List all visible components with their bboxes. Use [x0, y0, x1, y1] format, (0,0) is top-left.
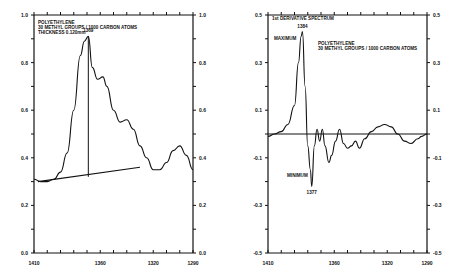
y-tick-label-right: -0.3 — [433, 202, 442, 208]
y-tick-label-right: -0.5 — [433, 250, 442, 256]
max-value-label: 1384 — [297, 24, 308, 29]
spectrum-curve — [268, 32, 427, 187]
y-tick-label-left: 0.8 — [21, 60, 28, 66]
y-tick-label-right: -0.1 — [433, 155, 442, 161]
y-tick-label-left: 0.2 — [21, 202, 28, 208]
y-tick-label-left: 1.0 — [21, 12, 28, 18]
y-tick-label-right: 0.2 — [199, 202, 206, 208]
max-label: MAXIMUM — [274, 36, 297, 41]
baseline-line — [38, 167, 140, 181]
spectrum-curve — [34, 36, 193, 181]
y-tick-label-right: 1.0 — [199, 12, 206, 18]
absorbance-chart: 1.01.00.80.80.60.60.40.40.20.20.00.01410… — [21, 12, 206, 266]
y-tick-label-left: 0.4 — [21, 155, 28, 161]
annotation-line: 30 METHYL GROUPS / 1000 CARBON ATOMS — [318, 46, 417, 51]
y-tick-label-right: 0.3 — [433, 60, 440, 66]
x-tick-label: 1290 — [187, 260, 198, 266]
y-tick-label-left: 0.1 — [255, 107, 262, 113]
annotation-line: THICKNESS 0.120mm — [38, 30, 86, 35]
y-tick-label-right: 0.1 — [433, 107, 440, 113]
min-label: MINIMUM — [287, 173, 308, 178]
derivative-chart: 0.50.50.30.30.10.1-0.1-0.1-0.3-0.3-0.5-0… — [253, 12, 441, 266]
y-tick-label-left: 0.0 — [21, 250, 28, 256]
y-tick-label-right: 0.4 — [199, 155, 206, 161]
x-tick-label: 1360 — [95, 260, 106, 266]
x-tick-label: 1320 — [382, 260, 393, 266]
y-tick-label-right: 0.5 — [433, 12, 440, 18]
y-tick-label-right: 0.8 — [199, 60, 206, 66]
spectra-figure: 1.01.00.80.80.60.60.40.40.20.20.00.01410… — [0, 0, 457, 276]
x-tick-label: 1410 — [262, 260, 273, 266]
y-tick-label-right: 0.0 — [199, 250, 206, 256]
y-tick-label-left: 0.6 — [21, 107, 28, 113]
derivative-title: 1st DERIVATIVE SPECTRUM — [272, 16, 334, 21]
x-tick-label: 1410 — [28, 260, 39, 266]
x-tick-label: 1290 — [421, 260, 432, 266]
y-tick-label-left: 0.3 — [255, 60, 262, 66]
min-value-label: 1377 — [307, 190, 318, 195]
y-tick-label-left: -0.5 — [253, 250, 262, 256]
y-tick-label-right: 0.6 — [199, 107, 206, 113]
x-tick-label: 1320 — [148, 260, 159, 266]
y-tick-label-left: 0.5 — [255, 12, 262, 18]
peak-label: 1369 — [83, 28, 94, 33]
y-tick-label-left: -0.3 — [253, 202, 262, 208]
x-tick-label: 1360 — [329, 260, 340, 266]
y-tick-label-left: -0.1 — [253, 155, 262, 161]
